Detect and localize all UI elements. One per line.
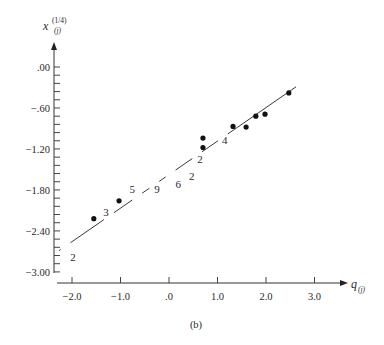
multiplicity-label: 2	[189, 170, 195, 182]
reference-line-segment	[142, 188, 149, 193]
x-tick-label: .0	[165, 291, 173, 302]
reference-line-segment	[228, 87, 296, 134]
data-point	[244, 125, 249, 130]
data-point	[230, 124, 235, 129]
multiplicity-label: 6	[175, 178, 181, 190]
x-tick-label: 1.0	[211, 291, 224, 302]
data-point	[116, 198, 121, 203]
multiplicity-label: 9	[154, 183, 160, 195]
y-tick-label: −1.80	[26, 185, 50, 196]
x-tick-label: 3.0	[308, 291, 321, 302]
y-axis-label: x	[42, 19, 49, 33]
y-tick-label: −1.20	[26, 144, 50, 155]
reference-line-segment	[176, 159, 193, 171]
data-point	[286, 90, 291, 95]
y-tick-label: −3.00	[26, 267, 50, 278]
y-axis: .00−.60−1.20−1.80−2.40−3.00	[26, 42, 60, 278]
multiplicity-label: 3	[103, 206, 109, 218]
multiplicity-label: 2	[70, 251, 76, 263]
multiplicity-label: 5	[129, 183, 135, 195]
y-axis-label-superscript: (1/4)	[52, 16, 67, 25]
data-points	[91, 90, 291, 221]
x-tick-label: −2.0	[62, 291, 81, 302]
x-tick-label: 2.0	[259, 291, 272, 302]
qq-plot-figure: .00−.60−1.20−1.80−2.40−3.00 −2.0−1.0.01.…	[0, 0, 384, 345]
data-point	[200, 135, 205, 140]
x-axis-label-subscript: (j)	[358, 285, 366, 294]
reference-line-segment	[70, 220, 104, 243]
chart-svg: .00−.60−1.20−1.80−2.40−3.00 −2.0−1.0.01.…	[0, 0, 384, 345]
data-point	[262, 112, 267, 117]
figure-caption: (b)	[190, 319, 203, 331]
x-tick-label: −1.0	[111, 291, 130, 302]
reference-line-segment	[159, 177, 165, 181]
data-point	[253, 114, 258, 119]
y-tick-label: −2.40	[26, 226, 50, 237]
y-tick-label: .00	[37, 62, 50, 73]
x-axis-arrow-icon	[340, 280, 348, 286]
reference-line-segment	[59, 250, 61, 251]
multiplicity-label: 4	[222, 134, 228, 146]
y-axis-arrow-icon	[51, 42, 57, 50]
data-point	[91, 216, 96, 221]
y-axis-label-subscript: (j)	[54, 26, 62, 35]
reference-line-segment	[114, 200, 132, 213]
x-axis-label: q	[351, 277, 357, 291]
multiplicity-label: 2	[197, 153, 203, 165]
x-axis: −2.0−1.0.01.02.03.0	[57, 277, 348, 302]
y-tick-label: −.60	[31, 103, 50, 114]
data-point	[200, 145, 205, 150]
reference-line	[59, 87, 296, 251]
multiplicity-labels: 23596224	[70, 134, 228, 263]
